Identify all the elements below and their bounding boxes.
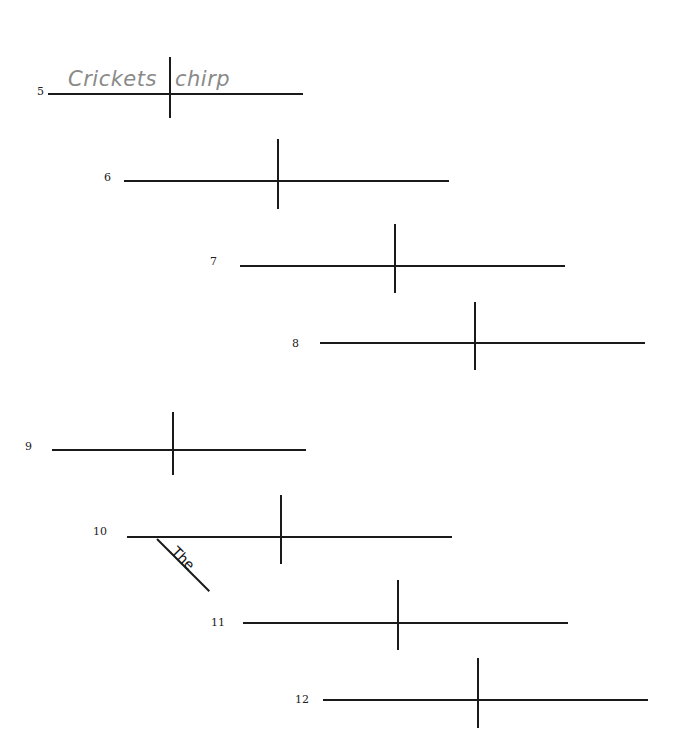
baseline <box>127 536 452 538</box>
baseline <box>48 93 303 95</box>
item-number: 11 <box>211 617 225 628</box>
item-number: 7 <box>210 256 217 267</box>
subject-predicate-divider <box>169 57 171 118</box>
subject-predicate-divider <box>474 302 476 370</box>
item-number: 8 <box>292 338 299 349</box>
subject-predicate-divider <box>172 412 174 475</box>
modifier-word: The <box>169 544 197 572</box>
baseline <box>323 699 648 701</box>
handwritten-predicate: chirp <box>175 69 230 90</box>
subject-predicate-divider <box>280 495 282 564</box>
baseline <box>52 449 306 451</box>
handwritten-subject: Crickets <box>68 69 157 90</box>
baseline <box>240 265 565 267</box>
subject-predicate-divider <box>394 224 396 293</box>
subject-predicate-divider <box>477 658 479 728</box>
subject-predicate-divider <box>397 580 399 650</box>
baseline <box>243 622 568 624</box>
baseline <box>320 342 645 344</box>
item-number: 9 <box>25 441 32 452</box>
baseline <box>124 180 449 182</box>
item-number: 6 <box>104 172 111 183</box>
item-number: 5 <box>37 86 44 97</box>
subject-predicate-divider <box>277 139 279 209</box>
item-number: 10 <box>93 526 107 537</box>
item-number: 12 <box>295 694 309 705</box>
